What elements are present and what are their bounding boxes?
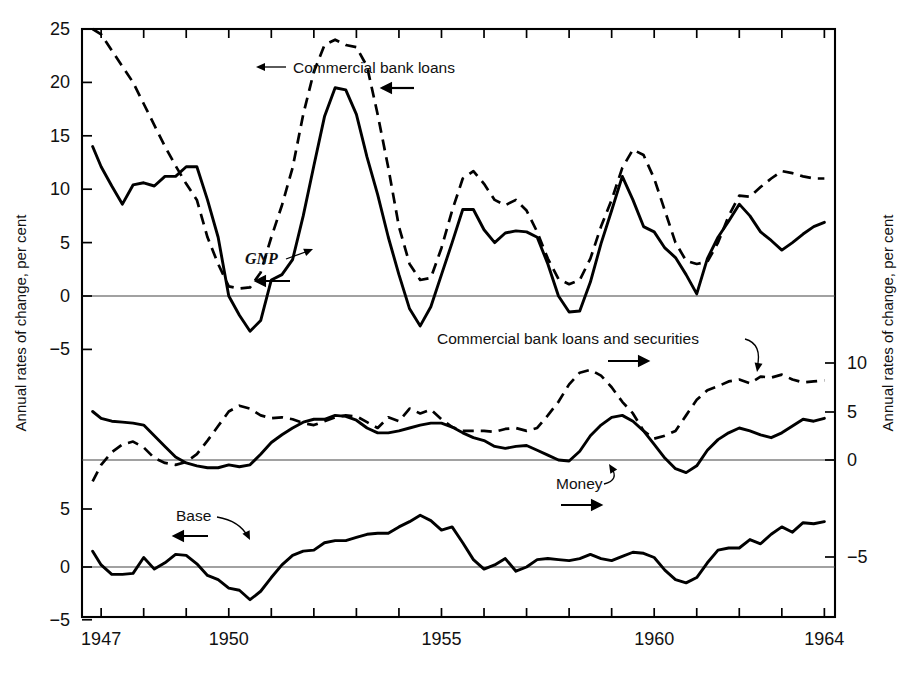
- left-axis-title: Annual rates of change, per cent: [12, 214, 29, 432]
- plot-frame: [82, 29, 835, 617]
- annotation-gnp: GNP: [245, 250, 278, 267]
- right-tick-label-5: 5: [847, 402, 857, 422]
- x-axis-label-1947: 1947: [81, 629, 121, 649]
- leader-arrowhead-gnp: [303, 245, 314, 256]
- series-gnp: [93, 88, 825, 332]
- series-commercial-bank-loans: [93, 29, 825, 289]
- leader-arrowhead-commercial-bank-loans: [256, 63, 265, 71]
- left-tick-label-top-5: 5: [60, 233, 70, 253]
- left-tick-label-middle-5: 5: [60, 499, 70, 519]
- left-tick-label-top--5: −5: [49, 339, 70, 359]
- annotation-base: Base: [176, 507, 211, 524]
- right-tick-label-10: 10: [847, 353, 867, 373]
- left-tick-label-top-25: 25: [50, 19, 70, 39]
- x-axis-label-1960: 1960: [634, 629, 674, 649]
- right-tick-label-0: 0: [847, 450, 857, 470]
- chart-svg: 2520151050−550−51050−5194719501955196019…: [0, 0, 911, 675]
- left-tick-label-top-15: 15: [50, 126, 70, 146]
- left-tick-label-bottom--5: −5: [49, 610, 70, 630]
- series-commercial-bank-loans-and-securities: [93, 370, 825, 482]
- left-tick-label-top-20: 20: [50, 72, 70, 92]
- annotation-commercial-bank-loans-and-securities: Commercial bank loans and securities: [437, 330, 699, 347]
- x-axis-label-1955: 1955: [421, 629, 461, 649]
- x-axis-label-1964: 1964: [804, 629, 844, 649]
- left-tick-label-bottom-0: 0: [60, 557, 70, 577]
- arrow-money: [561, 501, 601, 510]
- leader-arrowhead-money: [606, 462, 618, 474]
- arrow-commercial-bank-loans: [382, 84, 414, 93]
- x-axis-label-1950: 1950: [209, 629, 249, 649]
- annotation-money: Money: [556, 475, 603, 492]
- right-tick-label--5: −5: [847, 547, 868, 567]
- left-tick-label-top-10: 10: [50, 179, 70, 199]
- series-base: [93, 515, 825, 599]
- right-axis-title: Annual rates of change, per cent: [879, 214, 896, 432]
- arrow-commercial-bank-loans-and-securities: [608, 357, 648, 366]
- left-tick-label-top-0: 0: [60, 286, 70, 306]
- arrow-base: [174, 532, 208, 541]
- annotation-commercial-bank-loans: Commercial bank loans: [293, 59, 455, 76]
- series-money: [93, 412, 825, 473]
- chart-figure: 2520151050−550−51050−5194719501955196019…: [0, 0, 911, 675]
- leader-arrowhead-commercial-bank-loans-and-securities: [753, 362, 762, 372]
